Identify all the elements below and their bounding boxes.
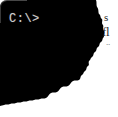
terminal-prompt-text[interactable]: C:\> (9, 12, 40, 26)
screenshot-root: s fl .. C:\> (0, 0, 118, 117)
